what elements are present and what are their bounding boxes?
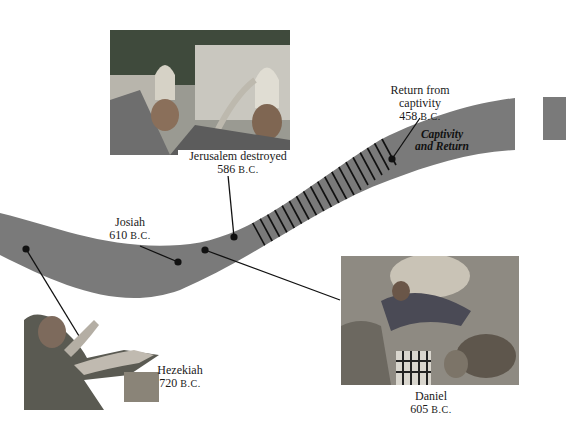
jerusalem-illustration	[110, 30, 290, 155]
jerusalem-connector	[228, 175, 234, 237]
jerusalem-label: Jerusalem destroyed 586 B.C.	[178, 150, 298, 176]
daniel-era: B.C.	[431, 404, 451, 415]
jerusalem-name: Jerusalem destroyed	[178, 150, 298, 163]
josiah-era: B.C.	[130, 230, 150, 241]
josiah-year: 610	[109, 228, 127, 242]
hezekiah-marker	[22, 245, 29, 252]
hezekiah-label: Hezekiah 720 B.C.	[150, 364, 210, 390]
daniel-connector	[205, 250, 340, 300]
hezekiah-illustration	[24, 310, 159, 410]
daniel-marker	[201, 246, 208, 253]
return-name-line2: captivity	[375, 97, 465, 110]
daniel-name: Daniel	[396, 390, 466, 403]
hezekiah-year: 720	[159, 376, 177, 390]
daniel-illustration	[341, 256, 519, 385]
timeline-continuation-block	[543, 97, 566, 140]
josiah-marker	[174, 258, 181, 265]
daniel-label: Daniel 605 B.C.	[396, 390, 466, 416]
return-label: Return from captivity 458 B.C.	[375, 84, 465, 123]
era-label-line1: Captivity	[402, 128, 482, 140]
return-era: B.C.	[420, 111, 440, 122]
daniel-year: 605	[410, 402, 428, 416]
josiah-label: Josiah 610 B.C.	[100, 216, 160, 242]
return-year: 458	[399, 109, 417, 123]
hezekiah-era: B.C.	[180, 378, 200, 389]
jerusalem-year: 586	[217, 162, 235, 176]
era-label-line2: and Return	[402, 140, 482, 152]
captivity-era-label: Captivity and Return	[402, 128, 482, 152]
jerusalem-marker	[230, 233, 237, 240]
jerusalem-era: B.C.	[238, 164, 258, 175]
return-marker	[388, 155, 395, 162]
